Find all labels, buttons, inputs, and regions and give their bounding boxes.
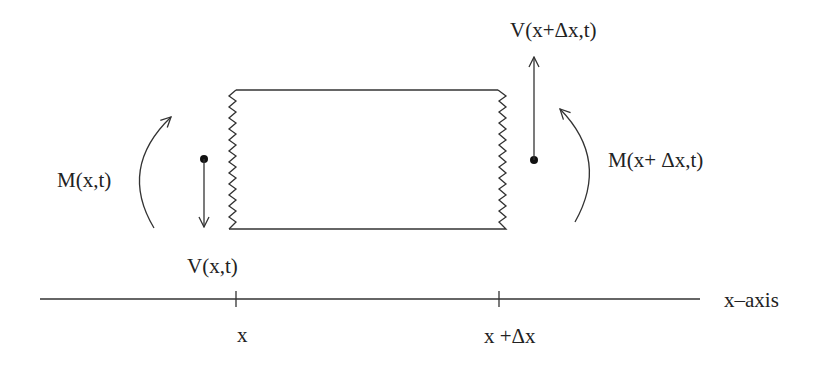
moment-left-label: M(x,t) bbox=[57, 170, 111, 191]
moment-right-arc-icon bbox=[560, 109, 589, 222]
beam-left-cut-edge bbox=[229, 90, 236, 229]
axis-tick-label-x-plus-dx: x +Δx bbox=[484, 326, 536, 347]
moment-right-label: M(x+ Δx,t) bbox=[608, 150, 703, 171]
axis-name-label: x–axis bbox=[724, 290, 779, 311]
beam-right-cut-edge bbox=[498, 90, 506, 229]
beam-element-diagram bbox=[0, 0, 821, 368]
shear-left-label: V(x,t) bbox=[187, 256, 238, 277]
axis-tick-label-x: x bbox=[237, 325, 248, 346]
moment-left-arc-icon bbox=[139, 117, 171, 228]
shear-right-label: V(x+Δx,t) bbox=[510, 20, 597, 41]
